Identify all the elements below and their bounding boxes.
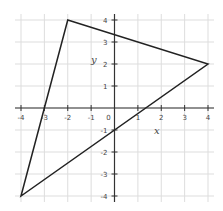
x-tick-label: 4 xyxy=(206,114,211,122)
y-tick-label: 1 xyxy=(103,83,107,91)
x-tick-label: 0 xyxy=(106,114,110,122)
y-tick-label: -2 xyxy=(101,149,108,157)
y-tick-label: 2 xyxy=(103,61,107,69)
y-tick-label: -3 xyxy=(101,171,108,179)
y-tick-label: -4 xyxy=(101,193,109,201)
y-tick-label: 3 xyxy=(103,39,107,47)
y-tick-label: -1 xyxy=(101,127,108,135)
y-tick-label: 4 xyxy=(103,17,108,25)
y-axis-label: y xyxy=(90,54,97,65)
x-tick-label: 3 xyxy=(182,114,186,122)
x-tick-label: -4 xyxy=(18,114,26,122)
x-tick-label: -1 xyxy=(88,114,95,122)
x-axis-label: x xyxy=(154,125,160,136)
x-tick-label: 2 xyxy=(159,114,163,122)
x-tick-label: -2 xyxy=(64,114,71,122)
coordinate-plane: -4-3-2-101234-4-3-2-11234 x y xyxy=(0,0,223,211)
